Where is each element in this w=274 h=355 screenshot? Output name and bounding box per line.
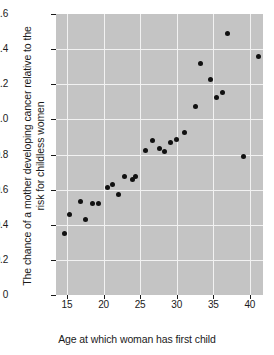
y-tick-mark xyxy=(51,225,56,226)
y-gridline xyxy=(56,49,263,50)
y-tick-label: 1.6 xyxy=(0,9,8,19)
data-point xyxy=(62,231,67,236)
y-tick-mark xyxy=(51,84,56,85)
data-point xyxy=(193,104,198,109)
data-point xyxy=(133,174,138,179)
x-axis-title: Age at which woman has first child xyxy=(0,333,274,345)
data-point xyxy=(157,146,162,151)
y-gridline xyxy=(56,155,263,156)
y-tick-label: 1.0 xyxy=(0,114,8,124)
y-tick-mark xyxy=(51,14,56,15)
x-tick-label: 30 xyxy=(162,300,192,310)
y-tick-label: 0.6 xyxy=(0,185,8,195)
data-point xyxy=(174,137,179,142)
plot-area xyxy=(56,14,263,295)
x-tick-label: 20 xyxy=(89,300,119,310)
data-point xyxy=(116,192,121,197)
y-tick-mark xyxy=(51,119,56,120)
data-point xyxy=(168,140,173,145)
data-point xyxy=(241,154,246,159)
y-tick-mark xyxy=(51,49,56,50)
data-point xyxy=(220,90,225,95)
data-point xyxy=(208,77,213,82)
y-tick-label: 0.4 xyxy=(0,220,8,230)
y-gridline xyxy=(56,225,263,226)
scatter-chart-figure: The chance of a mother developing cancer… xyxy=(0,0,274,355)
y-tick-mark xyxy=(51,190,56,191)
y-tick-mark xyxy=(51,295,56,296)
data-point xyxy=(198,61,203,66)
data-point xyxy=(110,182,115,187)
data-point xyxy=(96,201,101,206)
y-tick-mark xyxy=(51,260,56,261)
data-point xyxy=(214,95,219,100)
data-point xyxy=(256,54,261,59)
y-gridline xyxy=(56,84,263,85)
data-point xyxy=(143,148,148,153)
data-point xyxy=(225,31,230,36)
data-point xyxy=(90,201,95,206)
y-tick-label: 0 xyxy=(0,290,8,300)
y-tick-label: 0.8 xyxy=(0,150,8,160)
data-point xyxy=(83,217,88,222)
y-tick-label: 0.2 xyxy=(0,255,8,265)
data-point xyxy=(182,130,187,135)
data-point xyxy=(122,174,127,179)
y-tick-mark xyxy=(51,155,56,156)
data-point xyxy=(78,199,83,204)
x-tick-label: 25 xyxy=(125,300,155,310)
y-gridline xyxy=(56,190,263,191)
data-point xyxy=(150,138,155,143)
y-tick-label: 1.4 xyxy=(0,44,8,54)
y-axis-title: The chance of a mother developing cancer… xyxy=(21,19,47,293)
x-tick-label: 40 xyxy=(235,300,265,310)
y-tick-label: 1.2 xyxy=(0,79,8,89)
x-tick-label: 15 xyxy=(52,300,82,310)
y-gridline xyxy=(56,119,263,120)
data-point xyxy=(67,212,72,217)
y-gridline xyxy=(56,260,263,261)
x-tick-label: 35 xyxy=(198,300,228,310)
